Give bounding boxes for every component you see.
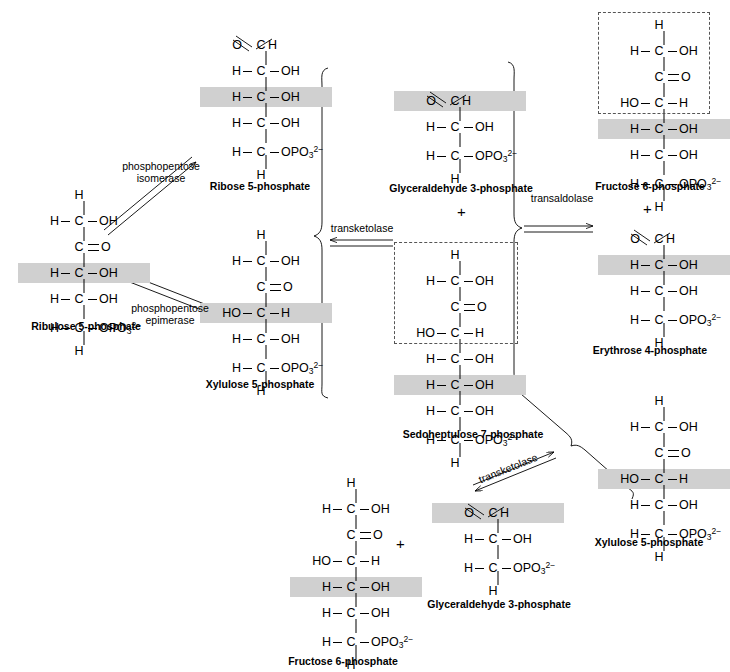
molecule-row: HOCH [202, 300, 330, 326]
row-left-group: H [20, 208, 72, 234]
row-left-group: H [292, 600, 344, 626]
molecule-row: HCOPO32− [396, 140, 524, 166]
molecule-row: HCOH [600, 38, 728, 64]
row-center-atom: C [254, 84, 268, 110]
row-center-atom: C [72, 260, 86, 286]
row-center-atom: C [448, 346, 462, 372]
row-right-group: OH [462, 114, 524, 140]
row-right-group: OH [268, 248, 330, 274]
row-center-atom: H [486, 578, 500, 604]
molecule-fructose-6-phosphate-top: HHCOHCOHOCHHCOHHCOHHCOPO32−H [600, 12, 728, 220]
row-left-group: H [434, 555, 486, 581]
row-right-group: OH [462, 268, 524, 294]
row-center-atom: C [344, 522, 358, 548]
row-left-group: O [434, 500, 486, 526]
row-right-group: H [462, 88, 524, 114]
row-right-group: OH [268, 84, 330, 110]
row-center-atom: H [344, 470, 358, 496]
row-right-group: H [666, 90, 728, 116]
molecule-row: H [20, 182, 148, 208]
row-center-atom: C [254, 32, 268, 58]
row-left-group: H [434, 526, 486, 552]
row-center-atom: C [448, 268, 462, 294]
row-left-group: H [600, 116, 652, 142]
molecule-row: CO [20, 234, 148, 260]
row-center-atom: C [652, 142, 666, 168]
row-left-group: O [600, 226, 652, 252]
molecule-row: HCOH [202, 326, 330, 352]
molecule-row: HCOH [600, 278, 728, 304]
row-center-atom: C [254, 326, 268, 352]
row-left-group: H [600, 142, 652, 168]
row-center-atom: C [652, 252, 666, 278]
arrow-transketolase-1 [330, 240, 393, 246]
row-center-atom: C [254, 248, 268, 274]
row-center-atom: C [254, 110, 268, 136]
row-right-group: OH [666, 278, 728, 304]
molecule-row: HCOPO32− [202, 136, 330, 162]
row-right-group: OPO32− [268, 352, 330, 384]
molecule-row: HCOPO32− [202, 352, 330, 378]
molecule-row: HCOH [396, 398, 524, 424]
row-center-atom: C [652, 278, 666, 304]
row-right-group: OPO32− [358, 626, 420, 658]
row-center-atom: C [448, 88, 462, 114]
plus-f6p-e4p: + [643, 200, 652, 217]
row-left-group: H [292, 629, 344, 655]
row-left-group: H [20, 260, 72, 286]
molecule-row: H [202, 222, 330, 248]
row-left-group: H [202, 355, 254, 381]
row-left-group: HO [292, 548, 344, 574]
row-left-group: H [396, 143, 448, 169]
molecule-row: HCOPO32− [600, 168, 728, 194]
row-right-group: OPO32− [666, 518, 728, 550]
row-left-group: H [20, 315, 72, 341]
molecule-glyceraldehyde-3-phosphate-top: OCHHCOHHCOPO32−H [396, 88, 524, 192]
row-right-group: O [86, 234, 148, 260]
row-right-group: H [666, 226, 728, 252]
molecule-row: OCH [202, 32, 330, 58]
row-center-atom: C [72, 234, 86, 260]
row-center-atom: C [652, 38, 666, 64]
row-center-atom: H [254, 162, 268, 188]
row-center-atom: H [652, 388, 666, 414]
molecule-row: HCOPO32− [292, 626, 420, 652]
row-left-group: H [600, 492, 652, 518]
row-left-group: H [600, 171, 652, 197]
row-left-group: H [202, 84, 254, 110]
row-center-atom: C [344, 600, 358, 626]
row-center-atom: H [652, 194, 666, 220]
molecule-row: HCOH [434, 526, 562, 552]
molecule-row: OCH [600, 226, 728, 252]
row-center-atom: H [652, 12, 666, 38]
row-center-atom: C [652, 116, 666, 142]
row-center-atom: C [448, 320, 462, 346]
row-center-atom: C [652, 466, 666, 492]
caption-fructose-6-phosphate-bottom: Fructose 6-phosphate [218, 655, 468, 667]
molecule-row: HCOH [600, 116, 728, 142]
row-right-group: H [462, 320, 524, 346]
molecule-row: HCOH [20, 286, 148, 312]
row-left-group: H [292, 496, 344, 522]
molecule-row: HCOH [292, 574, 420, 600]
row-center-atom: C [448, 294, 462, 320]
row-right-group: OH [666, 142, 728, 168]
row-left-group: H [396, 114, 448, 140]
row-right-group: OPO32− [268, 136, 330, 168]
molecule-row: HCOH [600, 414, 728, 440]
row-right-group: O [268, 274, 330, 300]
molecule-row: CO [600, 440, 728, 466]
row-center-atom: C [254, 58, 268, 84]
row-right-group: OH [462, 372, 524, 398]
row-left-group: O [202, 32, 254, 58]
molecule-row: HCOH [600, 492, 728, 518]
molecule-row: HCOH [396, 114, 524, 140]
row-right-group: OH [358, 574, 420, 600]
molecule-row: HCOH [202, 58, 330, 84]
row-right-group: OPO32− [666, 168, 728, 200]
row-left-group: H [396, 268, 448, 294]
row-center-atom: C [72, 208, 86, 234]
row-center-atom: C [652, 414, 666, 440]
molecule-ribulose-5-phosphate: HHCOHCOHCOHHCOHHCOPO32−H [20, 182, 148, 364]
